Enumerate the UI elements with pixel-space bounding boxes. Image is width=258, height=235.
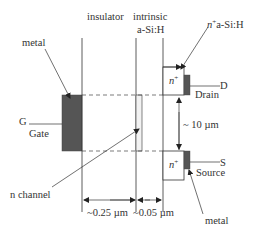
drain-metal <box>184 75 190 95</box>
gate-metal <box>62 95 82 151</box>
nplus-asih-pointer <box>181 27 208 69</box>
metal-top-pointer <box>45 49 70 98</box>
gate-label: Gate <box>29 129 49 140</box>
insulator-thickness-label: ~0.25 µm <box>87 208 128 219</box>
channel-length-label: ~ 10 µm <box>183 120 219 131</box>
source-metal <box>184 151 190 169</box>
intrinsic-label: intrinsic <box>133 12 167 23</box>
metal-bottom-label: metal <box>205 216 228 227</box>
asih-thickness-label: ~0.05 µm <box>133 208 174 219</box>
nplus-source-label: n+ <box>169 160 178 171</box>
asih-label: a-Si:H <box>137 25 164 36</box>
nplus-asih-label: n+a-Si:H <box>207 20 244 31</box>
n-channel-strip <box>136 95 142 151</box>
gate-letter: G <box>19 117 27 128</box>
insulator-label: insulator <box>87 12 124 23</box>
nplus-drain-label: n+ <box>169 76 178 87</box>
drain-label: Drain <box>195 90 219 101</box>
drain-letter: D <box>220 81 228 92</box>
n-channel-label: n channel <box>10 190 51 201</box>
metal-top-label: metal <box>22 38 45 49</box>
source-label: Source <box>196 168 225 179</box>
